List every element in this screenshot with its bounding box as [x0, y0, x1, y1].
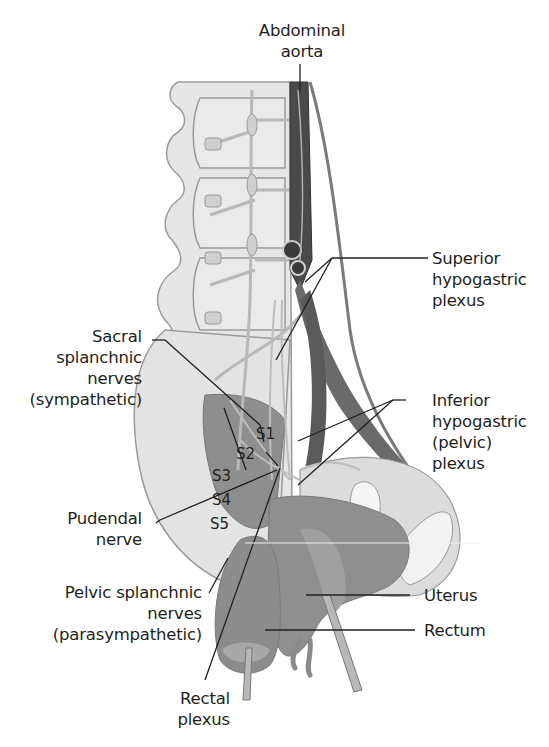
- label-text: plexus: [150, 709, 230, 730]
- diagram-canvas: Abdominal aorta Superior hypogastric ple…: [0, 0, 549, 747]
- label-abdominal-aorta: Abdominal aorta: [247, 20, 357, 62]
- label-text: hypogastric: [432, 269, 527, 290]
- label-superior-hypogastric-plexus: Superior hypogastric plexus: [432, 248, 527, 311]
- label-text: Abdominal: [247, 20, 357, 41]
- label-text: plexus: [432, 290, 527, 311]
- label-text: Inferior: [432, 390, 527, 411]
- label-text: Sacral: [10, 326, 142, 347]
- label-text: nerves: [10, 368, 142, 389]
- label-text: (sympathetic): [10, 389, 142, 410]
- label-rectal-plexus: Rectal plexus: [150, 688, 230, 730]
- label-text: hypogastric: [432, 411, 527, 432]
- label-sacral-splanchnic-nerves: Sacral splanchnic nerves (sympathetic): [10, 326, 142, 410]
- label-text: Pelvic splanchnic: [20, 582, 202, 603]
- label-text: Uterus: [424, 585, 477, 606]
- label-pelvic-splanchnic-nerves: Pelvic splanchnic nerves (parasympatheti…: [20, 582, 202, 645]
- label-text: splanchnic: [10, 347, 142, 368]
- label-text: Rectum: [424, 620, 486, 641]
- aorta: [283, 82, 440, 510]
- label-text: (parasympathetic): [20, 624, 202, 645]
- segment-s4: S4: [212, 492, 231, 508]
- label-text: nerves: [20, 603, 202, 624]
- label-text: plexus: [432, 453, 527, 474]
- label-text: Rectal: [150, 688, 230, 709]
- label-text: aorta: [247, 41, 357, 62]
- segment-s5: S5: [210, 516, 229, 532]
- segment-s2: S2: [236, 446, 255, 462]
- label-text: Superior: [432, 248, 527, 269]
- label-rectum: Rectum: [424, 620, 486, 641]
- label-inferior-hypogastric-plexus: Inferior hypogastric (pelvic) plexus: [432, 390, 527, 474]
- segment-s3: S3: [212, 468, 231, 484]
- segment-s1: S1: [256, 426, 275, 442]
- label-text: nerve: [20, 529, 142, 550]
- label-text: (pelvic): [432, 432, 527, 453]
- label-pudendal-nerve: Pudendal nerve: [20, 508, 142, 550]
- label-text: Pudendal: [20, 508, 142, 529]
- label-uterus: Uterus: [424, 585, 477, 606]
